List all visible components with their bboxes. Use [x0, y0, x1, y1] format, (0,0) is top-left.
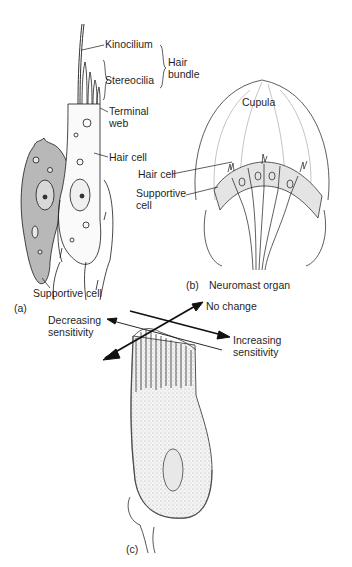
label-terminal-web: Terminal web [109, 105, 159, 129]
label-decreasing-sensitivity: Decreasing sensitivity [48, 314, 106, 338]
panel-c-drawing [128, 329, 212, 553]
label-hair-cell-a: Hair cell [109, 151, 147, 163]
label-hair-bundle: Hair bundle [168, 56, 208, 80]
label-supportive-cell-b: Supportive cell [136, 187, 191, 211]
label-increasing-sensitivity: Increasing sensitivity [233, 334, 291, 358]
panel-c-tag: (c) [126, 543, 138, 555]
label-supportive-cell-a: Supportive cell [33, 287, 102, 299]
label-stereocilia: Stereocilia [105, 74, 154, 86]
neuromast-cells [214, 162, 322, 218]
label-cupula: Cupula [242, 96, 275, 108]
label-no-change: No change [206, 300, 257, 312]
panel-a-drawing [21, 24, 113, 300]
label-hair-cell-b: Hair cell [138, 168, 176, 180]
label-kinocilium: Kinocilium [105, 38, 153, 50]
panel-b-caption: Neuromast organ [209, 279, 290, 291]
panel-a-tag: (a) [14, 302, 27, 314]
panel-b-drawing [195, 80, 329, 270]
figure-canvas [0, 0, 352, 567]
axis-diag-bold [130, 311, 222, 335]
nerve-fibers [240, 188, 290, 270]
stereocilia [82, 62, 100, 104]
panel-b-tag: (b) [186, 279, 199, 291]
kinocilium [78, 24, 84, 104]
hair-cell-c-nucleus [163, 449, 183, 491]
decreasing-arrowhead [107, 318, 117, 324]
increasing-arrowhead [217, 331, 230, 339]
no-change-arrowhead [192, 302, 203, 311]
